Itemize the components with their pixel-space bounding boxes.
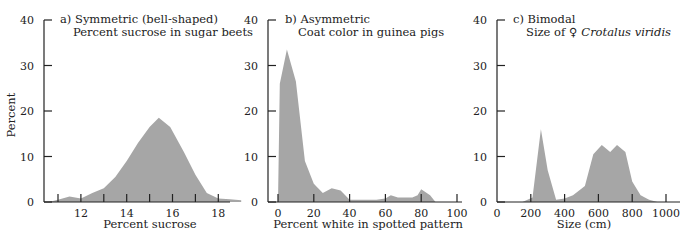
svg-text:30: 30 (473, 60, 487, 73)
panel-a-area (49, 118, 241, 202)
svg-text:800: 800 (622, 207, 643, 220)
panel-a-chart: 010203040 12141618 a) Symmetric (bell-sh… (20, 12, 253, 231)
svg-text:40: 40 (20, 14, 34, 27)
panel-b-area (278, 50, 436, 202)
panel-a-y-axis: 010203040 (20, 14, 52, 209)
svg-text:40: 40 (473, 14, 487, 27)
svg-text:0: 0 (494, 207, 501, 220)
panel-c-chart: 010203040 02004006008001000 c) Bimodal S… (473, 12, 680, 231)
panel-c-area (522, 129, 657, 202)
svg-text:10: 10 (473, 151, 487, 164)
panel-a-title: a) Symmetric (bell-shaped) (60, 12, 218, 26)
svg-text:10: 10 (244, 151, 258, 164)
panel-c-subtitle-plain: Size of ♀ (526, 25, 577, 39)
svg-text:0: 0 (251, 196, 258, 209)
svg-text:18: 18 (211, 207, 225, 220)
svg-text:20: 20 (473, 105, 487, 118)
panel-c-y-axis: 010203040 (473, 14, 505, 209)
panel-b-y-axis: 010203040 (244, 14, 276, 209)
svg-text:1000: 1000 (652, 207, 680, 220)
svg-text:0: 0 (27, 196, 34, 209)
svg-text:200: 200 (520, 207, 541, 220)
svg-text:20: 20 (244, 105, 258, 118)
svg-text:30: 30 (20, 60, 34, 73)
svg-text:12: 12 (74, 207, 88, 220)
svg-text:10: 10 (20, 151, 34, 164)
panel-c-subtitle: Size of ♀Crotalus viridis (526, 25, 671, 39)
svg-text:0: 0 (480, 196, 487, 209)
panel-c-subtitle-species: Crotalus viridis (581, 25, 671, 39)
figure-canvas: Percent 010203040 12141618 a) Symmetric … (0, 0, 685, 240)
svg-text:20: 20 (20, 105, 34, 118)
y-axis-title: Percent (4, 92, 18, 137)
panel-b-x-axis-title: Percent white in spotted pattern (273, 217, 463, 231)
panel-b-chart: 010203040 020406080100 b) Asymmetric Coa… (244, 12, 468, 231)
panel-a-x-axis-title: Percent sucrose (103, 217, 197, 231)
svg-text:40: 40 (244, 14, 258, 27)
panel-b-subtitle: Coat color in guinea pigs (298, 25, 444, 39)
panel-c-title: c) Bimodal (513, 12, 576, 26)
panel-b-title: b) Asymmetric (285, 12, 370, 26)
panel-c-x-axis-title: Size (cm) (557, 217, 611, 231)
panel-a-subtitle: Percent sucrose in sugar beets (73, 25, 253, 39)
svg-text:30: 30 (244, 60, 258, 73)
